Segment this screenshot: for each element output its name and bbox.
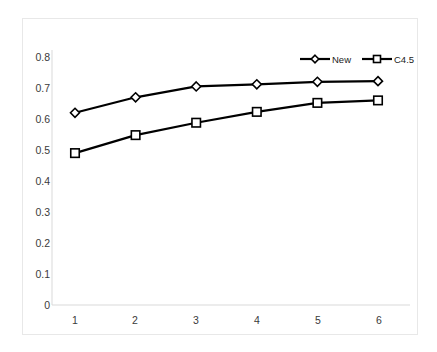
data-point-new-6 (374, 77, 383, 86)
legend-diamond-marker (311, 55, 319, 63)
data-point-c4-5-1 (71, 149, 80, 158)
series-c4-5 (71, 96, 383, 157)
data-point-c4-5-6 (374, 96, 383, 105)
data-point-c4-5-5 (313, 99, 322, 108)
series-new (71, 77, 383, 118)
data-point-new-4 (252, 80, 261, 89)
series-line (75, 100, 378, 153)
chart-svg-layer (0, 0, 437, 352)
data-point-c4-5-3 (192, 118, 201, 127)
data-point-new-3 (192, 82, 201, 91)
legend-square-marker (374, 56, 381, 63)
series-layer (71, 77, 383, 158)
data-point-new-2 (131, 93, 140, 102)
data-point-new-5 (313, 77, 322, 86)
chart-container: 0.8 0.7 0.6 0.5 0.4 0.3 0.2 0.1 0 1 2 3 … (0, 0, 437, 352)
legend-markers (300, 55, 392, 63)
data-point-c4-5-4 (253, 108, 261, 117)
series-line (75, 81, 378, 113)
data-point-new-1 (71, 108, 80, 117)
data-point-c4-5-2 (131, 131, 140, 140)
